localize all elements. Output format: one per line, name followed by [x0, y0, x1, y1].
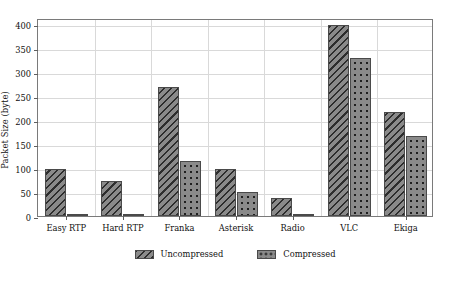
y-tick-label: 300: [15, 69, 31, 79]
y-tick-label: 250: [15, 93, 31, 103]
legend-item-compressed[interactable]: Compressed: [257, 249, 335, 259]
y-tick-label: 400: [15, 21, 31, 31]
y-tick: [34, 122, 38, 123]
bar-vlc-uncompressed: [328, 25, 349, 216]
x-tick: [123, 216, 124, 220]
x-tick: [349, 216, 350, 220]
bar-franka-compressed: [180, 161, 201, 216]
legend-swatch-compressed-icon: [257, 250, 276, 259]
y-tick: [34, 146, 38, 147]
legend-label-uncompressed: Uncompressed: [161, 249, 224, 259]
x-tick-label: Radio: [280, 223, 304, 233]
x-tick: [179, 216, 180, 220]
gridline-vertical: [151, 20, 152, 216]
plot-area: 050100150200250300350400 Easy RTPHard RT…: [37, 19, 433, 217]
gridline-horizontal: [38, 50, 432, 51]
bar-easy-rtp-uncompressed: [45, 169, 66, 216]
bar-asterisk-uncompressed: [215, 169, 236, 216]
bar-radio-compressed: [293, 214, 314, 216]
bar-asterisk-compressed: [237, 192, 258, 216]
y-tick-label: 200: [15, 117, 31, 127]
bar-hard-rtp-uncompressed: [101, 181, 122, 216]
y-tick: [34, 98, 38, 99]
y-tick: [34, 194, 38, 195]
gridline-vertical: [321, 20, 322, 216]
x-tick-label: Ekiga: [394, 223, 418, 233]
legend: Uncompressed Compressed: [37, 246, 433, 262]
y-tick: [34, 50, 38, 51]
y-tick: [34, 218, 38, 219]
legend-swatch-uncompressed-icon: [135, 250, 154, 259]
x-tick-label: Easy RTP: [46, 223, 86, 233]
y-tick-label: 100: [15, 165, 31, 175]
y-axis-title: Packet Size (byte): [0, 14, 14, 246]
y-tick-label: 0: [26, 213, 31, 223]
y-tick: [34, 74, 38, 75]
legend-label-compressed: Compressed: [283, 249, 335, 259]
x-tick-label: Asterisk: [219, 223, 253, 233]
bar-vlc-compressed: [350, 58, 371, 216]
y-tick: [34, 170, 38, 171]
x-tick: [66, 216, 67, 220]
gridline-horizontal: [38, 74, 432, 75]
bar-hard-rtp-compressed: [123, 214, 144, 216]
x-tick-label: Franka: [164, 223, 194, 233]
y-tick-label: 150: [15, 141, 31, 151]
x-tick-label: Hard RTP: [102, 223, 143, 233]
bar-ekiga-compressed: [406, 136, 427, 216]
bar-franka-uncompressed: [158, 87, 179, 216]
gridline-vertical: [95, 20, 96, 216]
gridline-vertical: [264, 20, 265, 216]
x-tick: [406, 216, 407, 220]
gridline-horizontal: [38, 98, 432, 99]
legend-item-uncompressed[interactable]: Uncompressed: [135, 249, 224, 259]
x-tick-label: VLC: [340, 223, 358, 233]
gridline-horizontal: [38, 26, 432, 27]
bar-radio-uncompressed: [271, 198, 292, 216]
bar-easy-rtp-compressed: [67, 214, 88, 216]
y-tick-label: 350: [15, 45, 31, 55]
bar-ekiga-uncompressed: [384, 112, 405, 216]
gridline-horizontal: [38, 146, 432, 147]
x-tick: [236, 216, 237, 220]
gridline-vertical: [208, 20, 209, 216]
y-tick: [34, 26, 38, 27]
chart-container: Packet Size (byte) 050100150200250300350…: [0, 0, 450, 281]
gridline-vertical: [377, 20, 378, 216]
gridline-horizontal: [38, 122, 432, 123]
y-tick-label: 50: [20, 189, 31, 199]
x-tick: [293, 216, 294, 220]
